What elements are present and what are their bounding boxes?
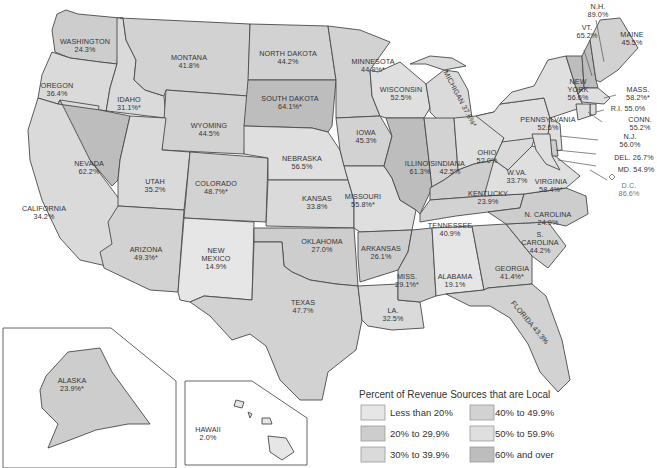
label-in-value: 42.5% <box>440 167 461 176</box>
label-hi-value: 2.0% <box>200 433 217 442</box>
state-hi-part-3[interactable] <box>262 418 272 424</box>
legend-swatch-4 <box>470 405 494 420</box>
dc-marker[interactable] <box>609 174 615 180</box>
label-mo-value: 55.8%* <box>351 200 375 209</box>
label-co-value: 48.7%* <box>204 187 228 196</box>
label-de: DEL. 26.7% <box>614 153 654 162</box>
label-mt-value: 41.8% <box>179 61 200 70</box>
legend-label-6: 60% and over <box>495 449 554 460</box>
label-wv-value: 33.7% <box>507 176 528 185</box>
label-wa-value: 24.3% <box>75 45 96 54</box>
map-canvas: WASHINGTON24.3%OREGON36.4%CALIFORNIA34.2… <box>0 0 657 468</box>
label-ma-value: 58.2%* <box>626 93 650 102</box>
label-az-value: 49.3%* <box>134 253 158 262</box>
label-wi-value: 52.5% <box>391 93 412 102</box>
label-ar-value: 26.1% <box>371 252 392 261</box>
legend-label-1: Less than 20% <box>390 407 453 418</box>
label-ia-value: 45.3% <box>356 136 377 145</box>
label-la-value: 32.5% <box>383 314 404 323</box>
label-nj-value: 56.0% <box>620 140 641 149</box>
label-me-value: 45.5% <box>622 38 643 47</box>
label-sc-value: 44.2% <box>530 246 551 255</box>
label-al-value: 19.1% <box>445 280 466 289</box>
legend-swatch-6 <box>470 447 494 462</box>
label-ak-value: 23.9%* <box>60 384 84 393</box>
leader-line-ri <box>596 110 604 112</box>
legend-swatch-2 <box>361 426 385 441</box>
leader-line-dc <box>590 170 607 180</box>
label-md: MD. 54.9% <box>618 165 655 174</box>
label-il-value: 61.3% <box>410 167 431 176</box>
label-ks-value: 33.8% <box>307 202 328 211</box>
leader-line-del <box>556 150 596 154</box>
label-ct-value: 55.2% <box>630 123 651 132</box>
state-fl[interactable] <box>446 284 570 392</box>
us-choropleth-map: WASHINGTON24.3%OREGON36.4%CALIFORNIA34.2… <box>0 0 657 468</box>
label-ny-value: 56.6% <box>568 93 589 102</box>
label-sd-value: 64.1%* <box>278 102 302 111</box>
legend: Percent of Revenue Sources that are Loca… <box>359 389 555 462</box>
state-hi-part-1[interactable] <box>234 400 244 408</box>
label-nd-value: 44.2% <box>278 57 299 66</box>
legend-label-4: 40% to 49.9% <box>495 407 555 418</box>
label-or-value: 36.4% <box>47 89 68 98</box>
legend-swatch-3 <box>361 447 385 462</box>
legend-title: Percent of Revenue Sources that are Loca… <box>359 389 550 400</box>
state-mi-part-2[interactable] <box>410 56 466 70</box>
label-ca-value: 34.2% <box>34 212 55 221</box>
legend-swatch-5 <box>470 426 494 441</box>
label-nh-value: 89.0% <box>588 10 609 19</box>
leader-line-nj <box>560 136 598 140</box>
label-id-value: 31.1%* <box>117 103 141 112</box>
legend-label-5: 50% to 59.9% <box>495 428 555 439</box>
label-ms-value: 29.1%* <box>395 280 419 289</box>
legend-label-2: 20% to 29.9% <box>390 428 450 439</box>
label-dc-value: 86.6% <box>619 189 640 198</box>
label-ga-value: 41.4%* <box>500 272 524 281</box>
label-nv-value: 62.2% <box>79 167 100 176</box>
label-tn-value: 40.9% <box>440 229 461 238</box>
label-ri: R.I. 55.0% <box>611 104 646 113</box>
label-nc-value: 24.9% <box>538 218 559 227</box>
label-nm-value: 14.9% <box>206 262 227 271</box>
legend-label-3: 30% to 39.9% <box>390 449 450 460</box>
label-vt-value: 65.2% <box>577 31 598 40</box>
label-ky-value: 23.9% <box>478 197 499 206</box>
label-ok-value: 27.0% <box>312 245 333 254</box>
label-oh-value: 52.0% <box>477 156 498 165</box>
label-va-value: 58.4%* <box>539 185 563 194</box>
label-mn-value: 44.9%* <box>361 65 385 74</box>
label-pa-value: 52.6% <box>538 123 559 132</box>
label-tx-value: 47.7% <box>293 306 314 315</box>
label-ut-value: 35.2% <box>145 185 166 194</box>
label-wy-value: 44.5% <box>199 129 220 138</box>
state-ct[interactable] <box>576 104 590 120</box>
legend-swatch-1 <box>361 405 385 420</box>
label-ne-value: 56.5% <box>292 162 313 171</box>
